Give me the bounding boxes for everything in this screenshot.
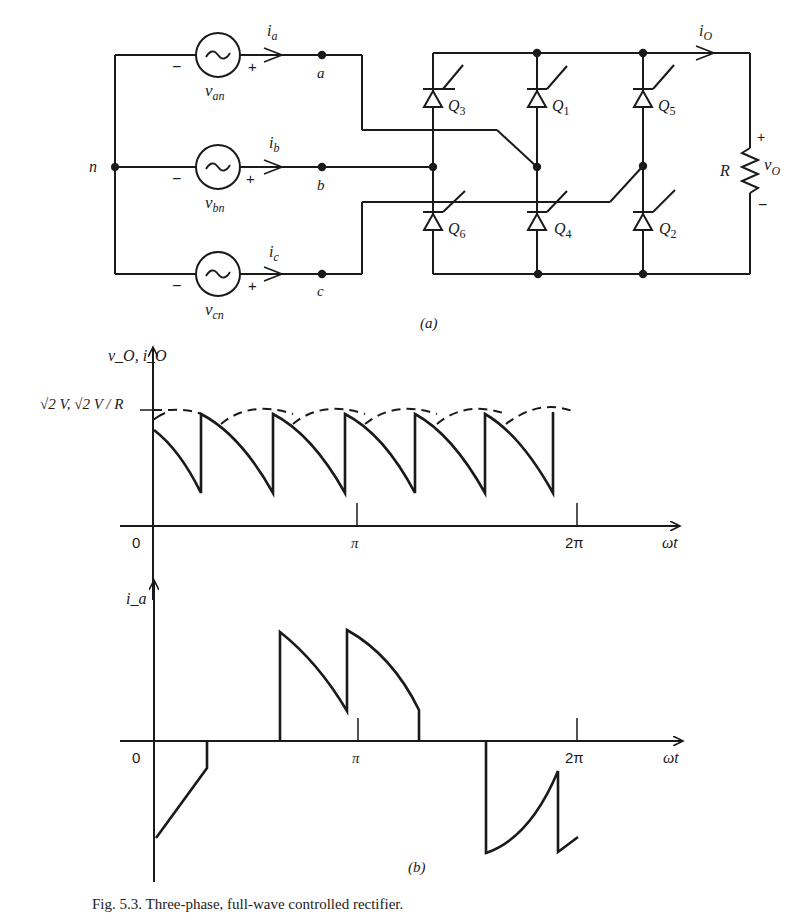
node-b-label: b: [317, 177, 325, 193]
output-current-subscript: O: [703, 29, 712, 43]
node-a: [319, 52, 325, 58]
x-tick-pi: π: [352, 750, 360, 766]
figure-caption: Fig. 5.3. Three-phase, full-wave control…: [92, 896, 403, 913]
svg-text:van: van: [205, 81, 225, 103]
svg-text:ic: ic: [269, 243, 279, 264]
output-voltage-plot: [120, 347, 680, 600]
circuit-diagram: [112, 33, 758, 296]
x-tick-pi: π: [351, 535, 359, 551]
node-c-label: c: [317, 283, 324, 299]
x-axis-label: ωt: [662, 534, 678, 551]
phase-current-plot: [120, 580, 683, 882]
minus-sign: −: [172, 277, 181, 294]
plus-sign: +: [248, 277, 257, 294]
svg-text:iO: iO: [699, 22, 712, 43]
circuit-labels: n − + van ia a − + vbn ib b − + vcn ic c…: [89, 22, 781, 332]
source-subscript: cn: [213, 308, 224, 322]
plus-sign: +: [246, 170, 255, 187]
node-c: [319, 271, 325, 277]
phase-current-plot-labels: i_a 0 π 2π ωt (b): [126, 590, 679, 876]
thyristor-label: Q: [659, 220, 671, 237]
output-voltage-waveform: [154, 412, 553, 493]
neutral-label: n: [89, 158, 97, 175]
thyristor-label: Q: [658, 97, 670, 114]
node-a-label: a: [317, 65, 325, 81]
svg-text:Q3: Q3: [448, 97, 466, 118]
x-tick-0: 0: [132, 534, 140, 551]
current-subscript: a: [271, 29, 277, 43]
resistor-label: R: [719, 162, 730, 179]
svg-text:Q5: Q5: [658, 97, 676, 118]
x-tick-0: 0: [132, 749, 140, 766]
output-voltage-subscript: O: [772, 164, 781, 178]
thyristor-label: Q: [448, 97, 460, 114]
svg-text:ia: ia: [267, 22, 277, 43]
minus-sign: −: [758, 196, 767, 213]
thyristor-subscript: 6: [460, 227, 466, 241]
source-subscript: an: [213, 89, 225, 103]
svg-text:Q6: Q6: [448, 220, 466, 241]
svg-text:vO: vO: [764, 155, 781, 178]
x-axis-label: ωt: [663, 749, 679, 766]
y-axis-label: v_O, i_O: [108, 347, 167, 364]
resistor-icon: [742, 148, 758, 193]
svg-text:vbn: vbn: [205, 193, 225, 215]
y-tick-peak-label: √2 V, √2 V / R: [40, 396, 123, 412]
thyristor-label: Q: [554, 220, 566, 237]
thyristor-subscript: 4: [566, 227, 572, 241]
minus-sign: −: [172, 58, 181, 75]
node-b: [319, 164, 325, 170]
x-tick-2pi: 2π: [565, 749, 584, 766]
thyristor-label: Q: [448, 220, 460, 237]
y-axis-label: i_a: [126, 590, 146, 607]
panel-b-label: (b): [408, 859, 426, 876]
svg-text:ib: ib: [269, 134, 279, 155]
plus-sign: +: [757, 129, 765, 145]
thyristor-subscript: 1: [564, 104, 570, 118]
panel-a-label: (a): [420, 315, 438, 332]
minus-sign: −: [172, 170, 181, 187]
svg-text:Q2: Q2: [659, 220, 677, 241]
plus-sign: +: [248, 58, 257, 75]
envelope-dashed-line: [153, 407, 575, 424]
thyristor-subscript: 5: [670, 104, 676, 118]
current-subscript: b: [273, 141, 279, 155]
current-subscript: c: [273, 250, 279, 264]
thyristor-subscript: 2: [671, 227, 677, 241]
source-subscript: bn: [213, 201, 225, 215]
svg-text:Q4: Q4: [554, 220, 572, 241]
thyristor-subscript: 3: [460, 104, 466, 118]
svg-text:Q1: Q1: [552, 97, 570, 118]
output-voltage-plot-labels: v_O, i_O √2 V, √2 V / R 0 π 2π ωt: [40, 347, 678, 551]
thyristor-label: Q: [552, 97, 564, 114]
x-tick-2pi: 2π: [565, 534, 584, 551]
svg-text:vcn: vcn: [205, 300, 224, 322]
